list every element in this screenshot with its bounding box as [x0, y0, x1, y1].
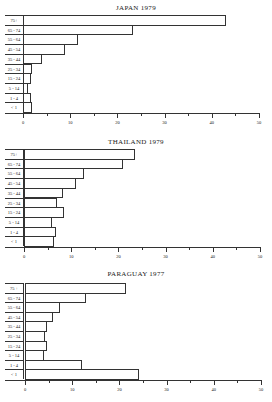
- minor-tick: [96, 380, 97, 383]
- minor-tick: [190, 380, 191, 383]
- x-tick-label: 40: [208, 387, 220, 392]
- minor-tick: [237, 380, 238, 383]
- category-label: 65 - 74: [5, 159, 23, 169]
- x-tick-label: 0: [18, 254, 30, 259]
- category-label: 65 - 74: [5, 25, 23, 35]
- chart-title: JAPAN 1979: [0, 4, 272, 12]
- major-tick: [214, 380, 215, 385]
- category-label-column: 75+65 - 7455 - 6445 - 5435 - 4425 - 3415…: [5, 15, 24, 112]
- major-tick: [260, 247, 261, 252]
- major-tick: [261, 380, 262, 385]
- major-tick: [119, 380, 120, 385]
- x-axis: [5, 380, 261, 381]
- x-tick-label: 10: [64, 120, 76, 125]
- category-label: 25 - 34: [5, 198, 23, 208]
- category-label: 75 +: [5, 283, 23, 293]
- category-label: 5 - 14: [5, 83, 23, 93]
- category-label: 55 - 64: [5, 34, 23, 44]
- x-tick-label: 20: [111, 120, 123, 125]
- bar: [23, 102, 32, 113]
- major-tick: [24, 247, 25, 252]
- major-tick: [167, 380, 168, 385]
- category-label: 5 - 14: [5, 217, 23, 227]
- x-tick-label: 0: [19, 387, 31, 392]
- category-label: 55 - 64: [5, 302, 23, 312]
- x-tick-label: 30: [161, 387, 173, 392]
- category-label: 35 - 44: [5, 54, 23, 64]
- category-label: 35 - 44: [5, 321, 23, 331]
- bar: [25, 369, 139, 380]
- x-tick-label: 40: [206, 120, 218, 125]
- x-axis: [5, 113, 259, 114]
- major-tick: [118, 247, 119, 252]
- category-label: < 1: [5, 236, 23, 246]
- x-tick-label: 10: [65, 254, 77, 259]
- minor-tick: [95, 247, 96, 250]
- category-label: 25 - 34: [5, 331, 23, 341]
- category-label: 15 - 24: [5, 341, 23, 351]
- category-label: 1 - 4: [5, 93, 23, 103]
- category-label: 45 - 54: [5, 178, 23, 188]
- category-label: 55 - 64: [5, 168, 23, 178]
- minor-tick: [142, 247, 143, 250]
- category-label: 65 - 74: [5, 293, 23, 303]
- category-label: 45 - 54: [5, 44, 23, 54]
- category-label-column: 75+65 - 7455 - 6445 - 5435 - 4425 - 3415…: [5, 149, 24, 246]
- minor-tick: [47, 113, 48, 116]
- category-label: 5 - 14: [5, 350, 23, 360]
- major-tick: [23, 113, 24, 118]
- category-label: < 1: [5, 369, 23, 379]
- minor-tick: [48, 247, 49, 250]
- major-tick: [213, 247, 214, 252]
- x-tick-label: 10: [66, 387, 78, 392]
- major-tick: [259, 113, 260, 118]
- major-tick: [166, 247, 167, 252]
- y-axis-line: [25, 377, 26, 380]
- chart-title: THAILAND 1979: [0, 138, 272, 146]
- major-tick: [25, 380, 26, 385]
- category-label: 75+: [5, 149, 23, 159]
- major-tick: [165, 113, 166, 118]
- x-tick-label: 50: [254, 254, 266, 259]
- minor-tick: [94, 113, 95, 116]
- category-label: 15 - 24: [5, 73, 23, 83]
- category-label: 25 - 34: [5, 64, 23, 74]
- x-tick-label: 0: [17, 120, 29, 125]
- minor-tick: [235, 113, 236, 116]
- major-tick: [72, 380, 73, 385]
- x-axis: [5, 247, 260, 248]
- major-tick: [117, 113, 118, 118]
- bar: [24, 236, 54, 247]
- y-axis-line: [23, 110, 24, 113]
- y-axis-line: [24, 244, 25, 247]
- x-tick-label: 50: [253, 120, 265, 125]
- x-tick-label: 40: [207, 254, 219, 259]
- minor-tick: [141, 113, 142, 116]
- x-tick-label: 20: [112, 254, 124, 259]
- minor-tick: [236, 247, 237, 250]
- category-label: < 1: [5, 102, 23, 112]
- x-tick-label: 30: [160, 254, 172, 259]
- category-label: 15 - 24: [5, 207, 23, 217]
- x-tick-label: 20: [113, 387, 125, 392]
- category-label: 1 - 4: [5, 227, 23, 237]
- chart-title: PARAGUAY 1977: [0, 270, 272, 278]
- major-tick: [70, 113, 71, 118]
- minor-tick: [49, 380, 50, 383]
- x-tick-label: 30: [159, 120, 171, 125]
- category-label: 75+: [5, 15, 23, 25]
- x-tick-label: 50: [255, 387, 267, 392]
- minor-tick: [143, 380, 144, 383]
- minor-tick: [188, 113, 189, 116]
- category-label: 35 - 44: [5, 188, 23, 198]
- category-label: 1 - 4: [5, 360, 23, 370]
- major-tick: [71, 247, 72, 252]
- minor-tick: [189, 247, 190, 250]
- major-tick: [212, 113, 213, 118]
- category-label-column: 75 +65 - 7455 - 6445 - 5435 - 4425 - 341…: [5, 283, 24, 379]
- category-label: 45 - 54: [5, 312, 23, 322]
